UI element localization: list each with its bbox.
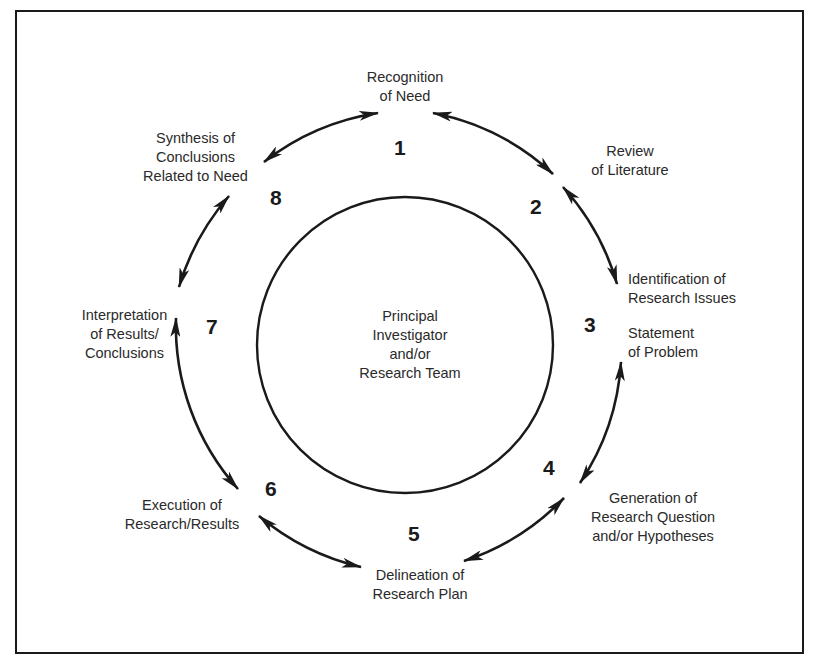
step-6-label: Execution of Research/Results <box>112 496 252 534</box>
arrow-1-2 <box>433 113 553 174</box>
step-5-number: 5 <box>408 523 420 545</box>
arrow-5-6 <box>259 516 361 567</box>
center-label: Principal Investigator and/or Research T… <box>340 307 480 383</box>
arrow-1-8 <box>264 113 378 162</box>
step-5-label: Delineation of Research Plan <box>360 566 480 604</box>
arrow-6-7 <box>176 318 238 489</box>
step-2-label: Review of Literature <box>580 142 680 180</box>
step-4-label: Generation of Research Question and/or H… <box>578 489 728 546</box>
step-6-number: 6 <box>265 478 277 500</box>
step-3-label-issues: Identification of Research Issues <box>628 270 768 308</box>
step-4-number: 4 <box>543 457 555 479</box>
step-7-number: 7 <box>206 316 218 338</box>
arrow-7-8 <box>179 196 229 287</box>
step-2-number: 2 <box>530 196 542 218</box>
step-7-label: Interpretation of Results/ Conclusions <box>72 306 177 363</box>
arrow-4-5 <box>464 498 564 561</box>
arrow-2-3 <box>563 187 617 284</box>
step-8-label: Synthesis of Conclusions Related to Need <box>128 129 263 186</box>
step-3-number: 3 <box>584 314 596 336</box>
step-1-label: Recognition of Need <box>355 68 455 106</box>
step-1-number: 1 <box>394 137 406 159</box>
step-8-number: 8 <box>270 187 282 209</box>
step-3-label-problem: Statement of Problem <box>628 324 748 362</box>
arrow-3-4 <box>580 362 621 483</box>
